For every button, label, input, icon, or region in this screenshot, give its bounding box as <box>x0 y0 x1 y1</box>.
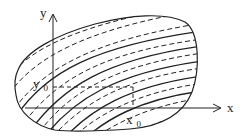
x0-main: x <box>126 112 133 127</box>
x-axis-label: x <box>227 100 234 115</box>
x0-sub: 0 <box>137 119 142 129</box>
y0-main: y <box>33 76 40 91</box>
y-axis-label: y <box>40 5 47 20</box>
x0-label: x 0 <box>126 110 142 129</box>
y0-sub: 0 <box>44 83 49 93</box>
level-curves-diagram: y x y 0 x 0 <box>0 0 249 140</box>
